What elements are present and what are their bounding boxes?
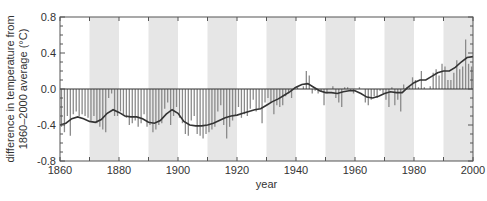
y-tick-label: -0.4 (37, 119, 56, 131)
x-axis-title: year (256, 178, 278, 190)
temperature-anomaly-chart: 0.80.40.0-0.4-0.8 1860188019001920194019… (0, 0, 487, 201)
y-tick-label: 0.8 (41, 11, 56, 23)
x-tick-label: 2000 (461, 164, 485, 176)
y-tick-label: 0.4 (41, 47, 56, 59)
x-tick-label: 1980 (402, 164, 426, 176)
y-axis-title: difference in temperature from1860–2000 … (4, 15, 29, 162)
x-tick-label: 1880 (107, 164, 131, 176)
x-tick-label: 1900 (166, 164, 190, 176)
x-tick-label: 1920 (225, 164, 249, 176)
x-tick-label: 1960 (343, 164, 367, 176)
y-axis-title-line: difference in temperature from (4, 15, 16, 162)
x-tick-label: 1860 (48, 164, 72, 176)
y-tick-label: 0.0 (41, 83, 56, 95)
y-axis-title-line: 1860–2000 average (°C) (17, 29, 29, 150)
x-tick-label: 1940 (284, 164, 308, 176)
